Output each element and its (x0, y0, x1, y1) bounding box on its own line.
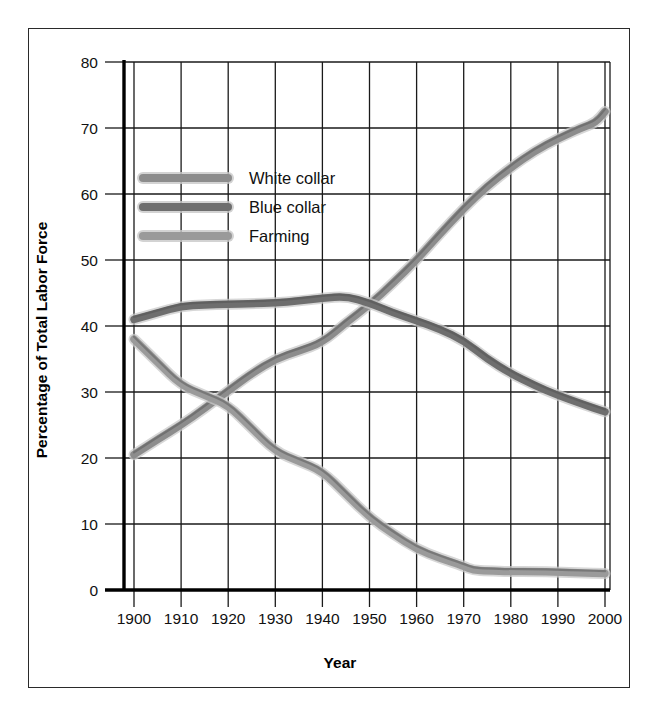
y-tick-label: 10 (81, 516, 99, 533)
x-axis-title: Year (324, 654, 357, 671)
y-tick-label: 20 (81, 450, 99, 467)
legend-label: Blue collar (249, 198, 327, 216)
line-chart: 01020304050607080 1900191019201930194019… (0, 0, 659, 721)
x-tick-label: 1910 (164, 610, 199, 627)
y-tick-label: 30 (81, 384, 99, 401)
x-tick-label: 1990 (541, 610, 576, 627)
x-tick-label: 1940 (305, 610, 340, 627)
y-tick-label: 70 (81, 120, 99, 137)
x-tick-label: 1960 (399, 610, 434, 627)
x-tick-label: 2000 (588, 610, 623, 627)
x-tick-label: 1930 (258, 610, 293, 627)
y-tick-label: 40 (81, 318, 99, 335)
legend-label: White collar (249, 169, 336, 187)
x-tick-label: 1980 (494, 610, 529, 627)
x-tick-label: 1900 (117, 610, 152, 627)
x-tick-label: 1970 (446, 610, 481, 627)
x-axis-tick-labels: 1900191019201930194019501960197019801990… (117, 610, 623, 627)
horizontal-gridlines (124, 62, 610, 524)
y-axis-title: Percentage of Total Labor Force (33, 221, 50, 458)
x-axis-ticks (134, 590, 605, 607)
y-axis-tick-labels: 01020304050607080 (81, 54, 99, 599)
y-tick-label: 0 (89, 582, 98, 599)
x-tick-label: 1920 (211, 610, 246, 627)
y-tick-label: 80 (81, 54, 99, 71)
y-tick-label: 50 (81, 252, 99, 269)
y-axis-ticks (105, 62, 124, 590)
legend-label: Farming (249, 227, 310, 245)
chart-legend: White collarBlue collarFarming (143, 169, 336, 245)
y-tick-label: 60 (81, 186, 99, 203)
x-tick-label: 1950 (352, 610, 387, 627)
chart-figure: 01020304050607080 1900191019201930194019… (0, 0, 659, 721)
